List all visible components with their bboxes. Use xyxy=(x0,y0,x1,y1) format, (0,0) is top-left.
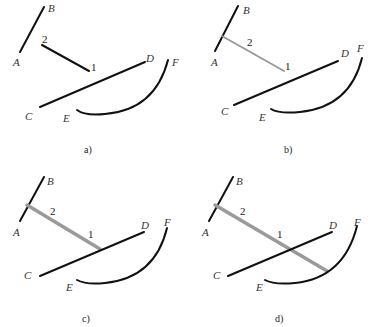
line-ab xyxy=(20,7,44,52)
label-1: 1 xyxy=(88,228,94,240)
panel-a: A B 2 1 C D E F a) xyxy=(12,2,179,156)
label-b: B xyxy=(236,175,243,187)
label-a: A xyxy=(12,56,20,68)
label-2: 2 xyxy=(42,33,48,45)
label-d: D xyxy=(328,219,337,231)
panel-d: A B 2 1 C D E F d) xyxy=(201,175,361,325)
label-b: B xyxy=(243,4,250,16)
segment-2-1 xyxy=(42,45,89,71)
label-f: F xyxy=(353,216,361,228)
label-e: E xyxy=(65,281,73,293)
label-2: 2 xyxy=(247,36,253,48)
panel-b: A B 2 1 C D E F b) xyxy=(210,4,364,156)
label-a: A xyxy=(210,56,218,68)
label-e: E xyxy=(62,112,70,124)
label-d: D xyxy=(145,52,154,64)
caption-d: d) xyxy=(275,313,283,325)
label-b: B xyxy=(48,2,55,14)
segment-2-1-extended xyxy=(215,205,327,271)
label-a: A xyxy=(201,226,209,238)
label-2: 2 xyxy=(50,205,56,217)
label-c: C xyxy=(213,269,221,281)
caption-a: a) xyxy=(84,144,92,156)
label-c: C xyxy=(25,110,33,122)
figure-canvas: A B 2 1 C D E F a) A B 2 1 C D E F b) A … xyxy=(0,0,368,327)
label-2: 2 xyxy=(240,205,246,217)
label-b: B xyxy=(47,175,54,187)
label-e: E xyxy=(255,281,263,293)
label-d: D xyxy=(140,219,149,231)
label-1: 1 xyxy=(277,228,283,240)
line-ab xyxy=(215,6,238,51)
label-c: C xyxy=(221,105,229,117)
caption-b: b) xyxy=(284,144,292,156)
panel-c: A B 2 1 C D E F c) xyxy=(12,175,171,325)
label-1: 1 xyxy=(91,61,97,73)
segment-2-1-extended xyxy=(27,205,100,249)
label-f: F xyxy=(163,216,171,228)
label-d: D xyxy=(340,47,349,59)
label-a: A xyxy=(12,226,20,238)
label-c: C xyxy=(24,269,32,281)
label-f: F xyxy=(356,42,364,54)
caption-c: c) xyxy=(82,313,90,325)
label-f: F xyxy=(171,56,179,68)
label-e: E xyxy=(258,111,266,123)
label-1: 1 xyxy=(285,60,291,72)
segment-2-1 xyxy=(222,36,284,71)
